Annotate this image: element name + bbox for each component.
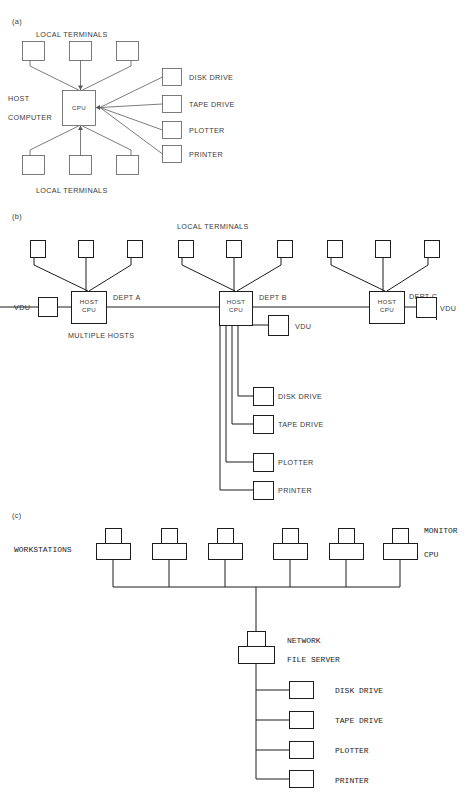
terminal-box (70, 42, 92, 61)
vdu-box-dept-b (269, 316, 289, 336)
host-cpu-label-line2: CPU (82, 306, 96, 313)
peripheral-label-tape-drive: TAPE DRIVE (278, 420, 324, 429)
workstation-monitor-box (218, 529, 234, 544)
section-c-label: (c) (12, 511, 22, 520)
workstation-monitor-box (162, 529, 178, 544)
section-b-terminals-label: LOCAL TERMINALS (177, 222, 249, 231)
vdu-box-dept-c (417, 298, 437, 318)
peripheral-label-disk-drive: DISK DRIVE (335, 686, 383, 695)
terminal-box (31, 241, 46, 258)
file-server-label-line2: FILE SERVER (287, 655, 340, 664)
workstation-monitor-box (393, 529, 409, 544)
cpu-label: CPU (72, 104, 86, 111)
peripheral-box-tape-drive (163, 96, 182, 113)
workstation-cpu-box (384, 544, 418, 560)
peripheral-label-plotter: PLOTTER (189, 126, 225, 135)
vdu-label-dept-c: VDU (440, 304, 456, 313)
host-cpu-label-line1: HOST (80, 298, 99, 305)
workstation-cpu-box (153, 544, 187, 560)
terminal-box (425, 241, 440, 258)
peripheral-label-disk-drive: DISK DRIVE (189, 73, 233, 82)
peripheral-box-plotter (290, 742, 314, 759)
workstation-cpu-box (209, 544, 243, 560)
terminal-box (117, 156, 139, 175)
peripheral-label-printer: PRINTER (189, 150, 223, 159)
multiple-hosts-label: MULTIPLE HOSTS (68, 331, 134, 340)
section-b: (b) LOCAL TERMINALS H (0, 212, 456, 500)
peripheral-box-printer (290, 771, 314, 788)
file-server-label-line1: NETWORK (287, 636, 321, 645)
peripheral-box-disk-drive (254, 388, 274, 406)
peripheral-label-tape-drive: TAPE DRIVE (189, 100, 235, 109)
file-server-cpu-box (239, 647, 275, 664)
host-cpu-label-line2: CPU (380, 306, 394, 313)
vdu-label-dept-b: VDU (295, 322, 311, 331)
section-a: (a) LOCAL TERMINALS CPU HOST COMPUTER (8, 17, 235, 195)
host-cpu-label-line1: HOST (378, 298, 397, 305)
figure-page: (a) LOCAL TERMINALS CPU HOST COMPUTER (0, 0, 471, 796)
host-cpu-label-line2: CPU (229, 306, 243, 313)
peripheral-label-disk-drive: DISK DRIVE (278, 392, 322, 401)
peripheral-label-tape-drive: TAPE DRIVE (335, 716, 383, 725)
arrow-head-top (78, 86, 83, 91)
workstations-label: WORKSTATIONS (14, 545, 72, 554)
workstation-cpu-box (97, 544, 131, 560)
terminal-box (117, 42, 139, 61)
peripheral-box-printer (254, 482, 274, 500)
file-server-monitor-box (248, 632, 266, 647)
peripheral-label-plotter: PLOTTER (335, 746, 369, 755)
terminal-box (23, 156, 45, 175)
workstation-cpu-box (274, 544, 308, 560)
peripheral-label-printer: PRINTER (278, 486, 312, 495)
terminal-box (376, 241, 391, 258)
terminal-box (227, 241, 242, 258)
terminal-box (179, 241, 194, 258)
terminal-box (278, 241, 293, 258)
terminal-box (328, 241, 343, 258)
host-cpu-label-line1: HOST (227, 298, 246, 305)
vdu-box-dept-a (39, 298, 58, 317)
section-c: (c) WORKSTATIONS (12, 511, 458, 788)
section-b-label: (b) (12, 212, 22, 221)
arrow-head-right (96, 105, 101, 110)
terminal-box (79, 241, 94, 258)
monitor-label: MONITOR (424, 526, 458, 535)
peripheral-box-disk-drive (163, 69, 182, 86)
peripheral-box-disk-drive (290, 682, 314, 699)
workstation-monitor-box (283, 529, 299, 544)
host-computer-label-line2: COMPUTER (8, 113, 52, 122)
section-a-bottom-terminals-label: LOCAL TERMINALS (36, 186, 108, 195)
terminal-box (70, 156, 92, 175)
section-a-label: (a) (12, 17, 22, 26)
peripheral-label-printer: PRINTER (335, 776, 369, 785)
network-topology-diagram: (a) LOCAL TERMINALS CPU HOST COMPUTER (0, 0, 471, 796)
workstation-cpu-box (330, 544, 364, 560)
workstation-monitor-box (339, 529, 355, 544)
dept-label-b: DEPT B (259, 293, 287, 302)
terminal-box (23, 42, 45, 61)
peripheral-box-printer (163, 146, 182, 163)
peripheral-label-plotter: PLOTTER (278, 458, 314, 467)
terminal-box (128, 241, 143, 258)
dept-label-a: DEPT A (113, 293, 141, 302)
section-a-top-terminals-label: LOCAL TERMINALS (36, 30, 108, 39)
host-computer-label-line1: HOST (8, 94, 30, 103)
peripheral-box-plotter (163, 122, 182, 139)
peripheral-box-plotter (254, 454, 274, 472)
cpu-label: CPU (424, 550, 439, 559)
peripheral-box-tape-drive (290, 712, 314, 729)
workstation-monitor-box (106, 529, 122, 544)
peripheral-box-tape-drive (254, 416, 274, 434)
